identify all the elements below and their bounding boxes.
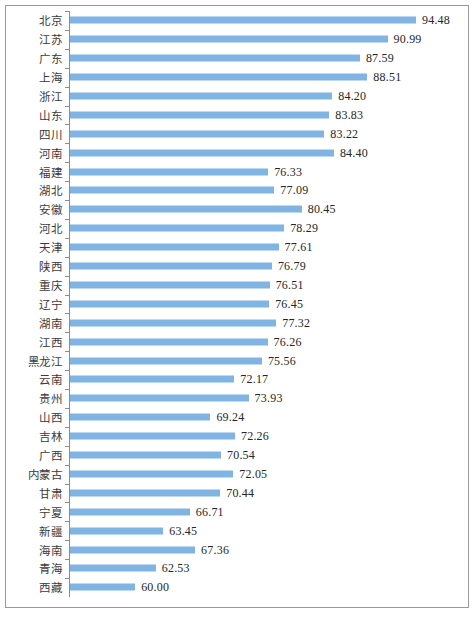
bar xyxy=(70,244,279,251)
axis-tick xyxy=(65,30,69,31)
axis-tick xyxy=(65,502,69,503)
bar xyxy=(70,300,269,307)
bar-track xyxy=(70,36,388,43)
bar-track xyxy=(70,17,416,24)
bar-track xyxy=(70,357,262,364)
bar-track xyxy=(70,206,302,213)
category-label: 宁夏 xyxy=(39,504,62,520)
bar-track xyxy=(70,263,272,270)
bar-track xyxy=(70,414,210,421)
bar xyxy=(70,452,221,459)
bar xyxy=(70,376,234,383)
category-label: 新疆 xyxy=(39,523,62,539)
bar-value-label: 83.22 xyxy=(330,126,358,141)
axis-tick xyxy=(65,408,69,409)
bar-track xyxy=(70,111,329,118)
bar-value-label: 80.45 xyxy=(308,202,336,217)
bar-row: 甘肃70.44 xyxy=(6,484,470,503)
bar-track xyxy=(70,395,249,402)
bar-value-label: 63.45 xyxy=(169,523,197,538)
bar-value-label: 72.26 xyxy=(241,429,269,444)
bar-track xyxy=(70,489,220,496)
category-label: 甘肃 xyxy=(39,485,62,501)
bar-track xyxy=(70,527,163,534)
bar-row: 湖南77.32 xyxy=(6,313,470,332)
bar xyxy=(70,187,274,194)
bar-value-label: 72.17 xyxy=(240,372,268,387)
bar-value-label: 77.61 xyxy=(285,240,313,255)
axis-tick xyxy=(65,484,69,485)
axis-tick xyxy=(65,219,69,220)
category-label: 江西 xyxy=(39,334,62,350)
bar xyxy=(70,565,156,572)
bar-value-label: 77.32 xyxy=(282,315,310,330)
bar-row: 重庆76.51 xyxy=(6,276,470,295)
bar-track xyxy=(70,225,284,232)
bar-value-label: 76.33 xyxy=(274,164,302,179)
bar xyxy=(70,36,388,43)
bar-value-label: 77.09 xyxy=(280,183,308,198)
bar-value-label: 70.54 xyxy=(227,448,255,463)
axis-tick xyxy=(65,87,69,88)
bar-value-label: 73.93 xyxy=(255,391,283,406)
bar-track xyxy=(70,130,324,137)
category-label: 重庆 xyxy=(39,277,62,293)
axis-tick xyxy=(65,276,69,277)
bar-row: 天津77.61 xyxy=(6,238,470,257)
bar-track xyxy=(70,376,234,383)
bar xyxy=(70,263,272,270)
bar-track xyxy=(70,584,135,591)
bar-track xyxy=(70,452,221,459)
bar-track xyxy=(70,74,367,81)
bar-row: 四川83.22 xyxy=(6,124,470,143)
axis-tick xyxy=(65,465,69,466)
axis-tick xyxy=(65,238,69,239)
bar xyxy=(70,357,262,364)
bar xyxy=(70,546,195,553)
axis-tick xyxy=(65,106,69,107)
bar-value-label: 78.29 xyxy=(290,221,318,236)
bar-track xyxy=(70,546,195,553)
bar xyxy=(70,584,135,591)
bar xyxy=(70,338,268,345)
bar-value-label: 88.51 xyxy=(373,70,401,85)
bar-track xyxy=(70,565,156,572)
bar-value-label: 90.99 xyxy=(394,32,422,47)
bar-row: 陕西76.79 xyxy=(6,257,470,276)
bar-value-label: 76.45 xyxy=(275,296,303,311)
axis-tick xyxy=(65,11,69,12)
category-label: 海南 xyxy=(39,542,62,558)
axis-tick xyxy=(65,351,69,352)
axis-tick xyxy=(65,313,69,314)
bar xyxy=(70,55,360,62)
axis-tick xyxy=(65,559,69,560)
bar-row: 山西69.24 xyxy=(6,408,470,427)
bar-row: 新疆63.45 xyxy=(6,521,470,540)
bar-value-label: 84.20 xyxy=(338,88,366,103)
chart-frame: 北京94.48江苏90.99广东87.59上海88.51浙江84.20山东83.… xyxy=(5,5,469,608)
bar-track xyxy=(70,281,270,288)
axis-tick xyxy=(65,295,69,296)
category-label: 安徽 xyxy=(39,201,62,217)
bar-value-label: 66.71 xyxy=(196,504,224,519)
category-label: 辽宁 xyxy=(39,296,62,312)
axis-tick xyxy=(65,389,69,390)
bar-row: 海南67.36 xyxy=(6,540,470,559)
bar-row: 江苏90.99 xyxy=(6,30,470,49)
bar-value-label: 72.05 xyxy=(239,466,267,481)
bar-row: 宁夏66.71 xyxy=(6,502,470,521)
bar-row: 吉林72.26 xyxy=(6,427,470,446)
category-label: 广西 xyxy=(39,447,62,463)
bar-value-label: 67.36 xyxy=(201,542,229,557)
bar xyxy=(70,225,284,232)
category-label: 山西 xyxy=(39,409,62,425)
axis-tick xyxy=(65,49,69,50)
axis-tick xyxy=(65,257,69,258)
bar-row: 浙江84.20 xyxy=(6,87,470,106)
bar-track xyxy=(70,168,268,175)
category-label: 黑龙江 xyxy=(28,353,63,369)
bar-row: 湖北77.09 xyxy=(6,181,470,200)
bar-row: 西藏60.00 xyxy=(6,578,470,597)
category-label: 山东 xyxy=(39,107,62,123)
category-label: 浙江 xyxy=(39,88,62,104)
